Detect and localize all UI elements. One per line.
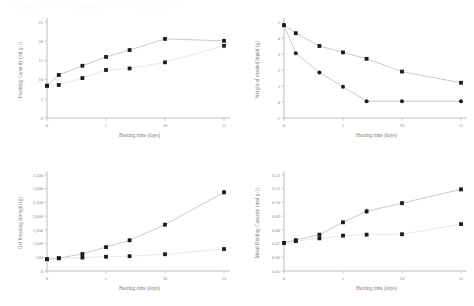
data-point-marker (104, 255, 108, 259)
series-line-1 (47, 46, 224, 86)
y-tick-label: 0.12 (272, 173, 281, 178)
y-tick-label: 5 (278, 20, 281, 25)
y-tick-label: 3 (278, 52, 281, 57)
x-axis-title: Heating time (days) (119, 285, 160, 292)
x-tick-label: 0 (283, 276, 286, 281)
data-point-marker (341, 234, 345, 238)
data-point-marker (318, 44, 322, 48)
x-axis-title: Heating time (days) (119, 132, 160, 139)
series-line-0 (47, 39, 224, 86)
chart-body-3: 0.050.060.070.080.090.100.110.12051015He… (254, 171, 467, 292)
data-point-marker (459, 81, 463, 85)
y-tick-label: 0.05 (272, 269, 281, 274)
data-point-marker (400, 232, 404, 236)
data-point-marker (81, 76, 85, 80)
data-point-marker (400, 99, 404, 103)
data-point-marker (294, 31, 298, 35)
data-point-marker (400, 201, 404, 205)
data-point-marker (81, 252, 85, 256)
y-tick-label: 5 (41, 97, 44, 102)
data-point-marker (104, 55, 108, 59)
data-point-marker (341, 220, 345, 224)
chart-body-2: 05001,0001,5002,0002,5003,0003,500051015… (17, 171, 230, 292)
x-tick-label: 10 (163, 123, 168, 128)
y-axis-title: Foaming Capacity (ml g-1) (17, 41, 24, 98)
y-tick-label: 0.06 (272, 255, 281, 260)
data-point-marker (318, 236, 322, 240)
data-point-marker (81, 256, 85, 260)
data-point-marker (163, 252, 167, 256)
x-tick-label: 15 (222, 123, 227, 128)
y-axis-title: Metal Binding Capacity (mol g-1) (254, 187, 261, 258)
x-axis-title: Heating time (days) (356, 285, 397, 292)
y-tick-label: 3,000 (33, 186, 44, 192)
y-tick-label: 20 (38, 39, 43, 44)
data-point-marker (222, 190, 226, 194)
data-point-marker (365, 209, 369, 213)
y-tick-label: 3,500 (33, 173, 44, 179)
series-line-0 (284, 189, 461, 242)
x-tick-label: 10 (400, 123, 405, 128)
data-point-marker (222, 44, 226, 48)
y-tick-label: 1,000 (33, 241, 44, 247)
y-tick-label: 1 (278, 84, 281, 89)
chart-panel-gel-breaking-strength: 05001,0001,5002,0002,5003,0003,500051015… (0, 153, 237, 306)
data-point-marker (282, 23, 286, 27)
chart-svg-metal-binding-capacity: 0.050.060.070.080.090.100.110.12051015He… (237, 153, 474, 306)
chart-panel-metal-binding-capacity: 0.050.060.070.080.090.100.110.12051015He… (237, 153, 474, 306)
data-point-marker (282, 241, 286, 245)
data-point-marker (128, 48, 132, 52)
x-tick-label: 0 (283, 123, 286, 128)
data-point-marker (163, 60, 167, 64)
data-point-marker (365, 233, 369, 237)
y-tick-label: -1 (276, 116, 281, 121)
data-point-marker (365, 99, 369, 103)
y-tick-label: 2,000 (33, 214, 44, 220)
data-point-marker (459, 222, 463, 226)
data-point-marker (104, 68, 108, 72)
data-point-marker (57, 256, 61, 260)
chart-svg-gel-breaking-strength: 05001,0001,5002,0002,5003,0003,500051015… (0, 153, 237, 306)
chart-svg-foaming-capacity: 0510152025051015Heating time (days)Foami… (0, 0, 237, 153)
chart-panel-foaming-capacity: 0510152025051015Heating time (days)Foami… (0, 0, 237, 153)
data-point-marker (341, 51, 345, 55)
x-tick-label: 5 (105, 276, 108, 281)
y-tick-label: 2,500 (33, 200, 44, 206)
x-tick-label: 15 (459, 276, 464, 281)
data-point-marker (163, 223, 167, 227)
x-tick-label: 5 (105, 123, 108, 128)
y-tick-label: 1,500 (33, 228, 44, 234)
x-tick-label: 5 (342, 123, 345, 128)
x-tick-label: 0 (46, 123, 49, 128)
y-tick-label: 0.09 (272, 214, 281, 219)
data-point-marker (318, 233, 322, 237)
y-tick-label: 0.10 (272, 200, 281, 205)
data-point-marker (365, 57, 369, 61)
chart-panel-weight-exuded-liquid: -1012345051015Heating time (days)Weight … (237, 0, 474, 153)
data-point-marker (81, 64, 85, 68)
figure-page: 0510152025051015Heating time (days)Foami… (0, 0, 474, 306)
data-point-marker (128, 238, 132, 242)
y-tick-label: 0.11 (272, 186, 281, 191)
y-tick-label: 0.07 (272, 241, 281, 246)
data-point-marker (222, 247, 226, 251)
series-line-0 (47, 192, 224, 259)
y-tick-label: 0 (41, 269, 44, 274)
y-axis-title: Gel breaking strength (g) (17, 197, 24, 250)
series-line-1 (284, 25, 461, 101)
data-point-marker (163, 37, 167, 41)
data-point-marker (128, 254, 132, 258)
x-tick-label: 10 (163, 276, 168, 281)
data-point-marker (459, 188, 463, 192)
series-line-1 (47, 249, 224, 259)
x-tick-label: 10 (400, 276, 405, 281)
data-point-marker (104, 245, 108, 249)
x-tick-label: 5 (342, 276, 345, 281)
x-tick-label: 15 (459, 123, 464, 128)
data-point-marker (400, 70, 404, 74)
chart-body-1: -1012345051015Heating time (days)Weight … (254, 18, 467, 139)
x-tick-label: 0 (46, 276, 49, 281)
y-tick-label: 15 (38, 58, 43, 63)
y-tick-label: 500 (36, 255, 44, 260)
data-point-marker (57, 83, 61, 87)
